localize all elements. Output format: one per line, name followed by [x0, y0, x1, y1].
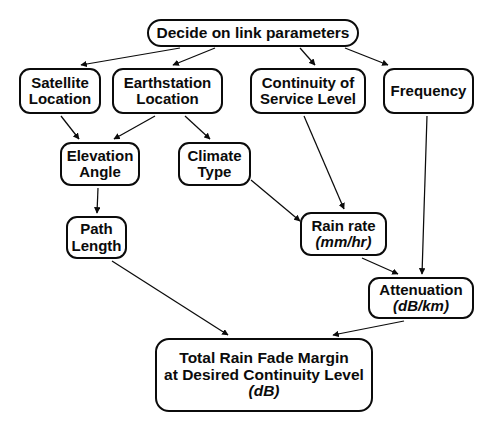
node-earthstation-label-line1: Earthstation — [124, 75, 212, 91]
node-decide-label: Decide on link parameters — [157, 25, 350, 42]
node-climate-type[interactable]: Climate Type — [178, 142, 251, 186]
node-climate-label-line1: Climate — [187, 148, 241, 164]
node-rainrate-label: Rain rate — [311, 218, 375, 234]
node-frequency-label: Frequency — [391, 83, 467, 99]
node-attenuation-unit: (dB/km) — [393, 298, 449, 314]
node-total-label-line1: Total Rain Fade Margin — [179, 350, 348, 367]
edge-decide-to-earthstation — [173, 48, 215, 65]
edge-decide-to-satellite — [81, 48, 180, 65]
node-path-length[interactable]: Path Length — [66, 216, 127, 259]
node-earthstation-label-line2: Location — [136, 91, 199, 107]
edge-elevation-to-pathlength — [97, 188, 98, 213]
edge-earthstation-to-elevation — [114, 116, 155, 139]
node-decide-on-link-parameters[interactable]: Decide on link parameters — [147, 19, 359, 47]
node-attenuation-label: Attenuation — [379, 282, 462, 298]
node-elevation-angle[interactable]: Elevation Angle — [60, 142, 140, 186]
node-satellite-location[interactable]: Satellite Location — [19, 68, 101, 114]
node-elevation-label-line2: Angle — [79, 164, 121, 180]
edge-continuity-to-rainrate — [304, 116, 344, 209]
node-elevation-label-line1: Elevation — [67, 148, 134, 164]
node-total-rain-fade-margin[interactable]: Total Rain Fade Margin at Desired Contin… — [155, 338, 373, 412]
node-continuity-label-line1: Continuity of — [262, 75, 354, 91]
node-continuity-label-line2: Service Level — [260, 91, 356, 107]
edge-rainrate-to-attenuation — [362, 258, 398, 274]
node-pathlength-label-line2: Length — [72, 238, 122, 254]
edge-frequency-to-attenuation — [422, 116, 427, 274]
node-rainrate-unit: (mm/hr) — [316, 234, 372, 250]
flowchart-canvas: Decide on link parameters Satellite Loca… — [0, 0, 489, 428]
node-satellite-label-line2: Location — [29, 91, 92, 107]
node-continuity-of-service-level[interactable]: Continuity of Service Level — [250, 68, 366, 114]
edge-earthstation-to-climate — [185, 116, 210, 139]
node-total-label-line2: at Desired Continuity Level — [164, 367, 364, 384]
edge-decide-to-frequency — [345, 48, 388, 65]
edge-climate-to-rainrate — [251, 180, 300, 221]
edge-attenuation-to-total — [333, 321, 404, 335]
node-climate-label-line2: Type — [198, 164, 232, 180]
edge-satellite-to-elevation — [61, 116, 79, 139]
node-total-unit: (dB) — [249, 383, 280, 400]
node-rain-rate[interactable]: Rain rate (mm/hr) — [300, 212, 387, 256]
node-earthstation-location[interactable]: Earthstation Location — [112, 68, 223, 114]
node-frequency[interactable]: Frequency — [383, 68, 474, 114]
node-pathlength-label-line1: Path — [80, 221, 113, 237]
node-attenuation[interactable]: Attenuation (dB/km) — [368, 277, 474, 319]
edge-pathlength-to-total — [112, 261, 228, 335]
node-satellite-label-line1: Satellite — [31, 75, 89, 91]
edge-decide-to-continuity — [300, 48, 315, 65]
